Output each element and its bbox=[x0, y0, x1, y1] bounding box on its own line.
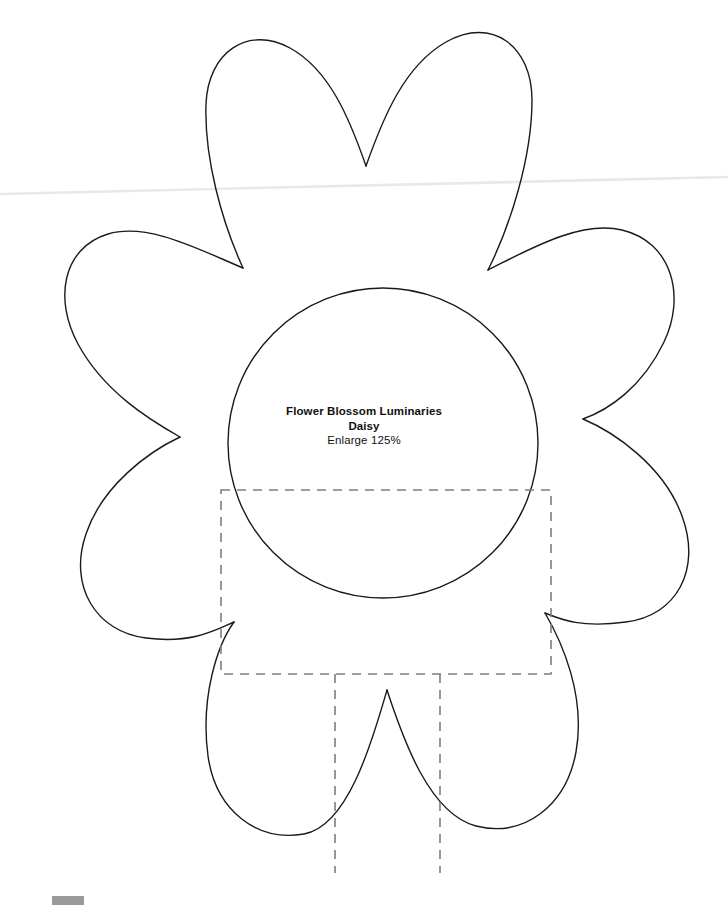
fold-rectangle bbox=[221, 490, 551, 674]
flower-center-circle bbox=[228, 288, 538, 598]
petal-bottom-right bbox=[387, 613, 578, 829]
petal-lower-right bbox=[545, 419, 689, 624]
scan-seam-line bbox=[0, 177, 728, 194]
petal-bottom-left bbox=[206, 622, 387, 835]
fold-line-group bbox=[221, 490, 551, 873]
petal-top-right bbox=[366, 33, 532, 271]
scan-corner-mark bbox=[52, 896, 84, 905]
petal-outline-group bbox=[65, 33, 689, 836]
petal-upper-left bbox=[65, 231, 243, 437]
petal-top-left bbox=[206, 40, 366, 268]
petal-lower-left bbox=[81, 437, 234, 639]
petal-upper-right bbox=[488, 228, 674, 419]
flower-template-artwork bbox=[0, 0, 728, 906]
scanned-template-page: Flower Blossom Luminaries Daisy Enlarge … bbox=[0, 0, 728, 906]
